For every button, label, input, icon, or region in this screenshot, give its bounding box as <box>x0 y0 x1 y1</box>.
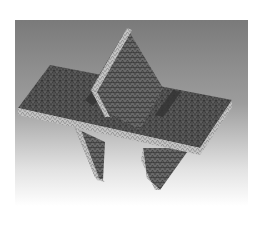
mesh-render <box>15 20 248 206</box>
mesh-illustration <box>15 20 248 206</box>
